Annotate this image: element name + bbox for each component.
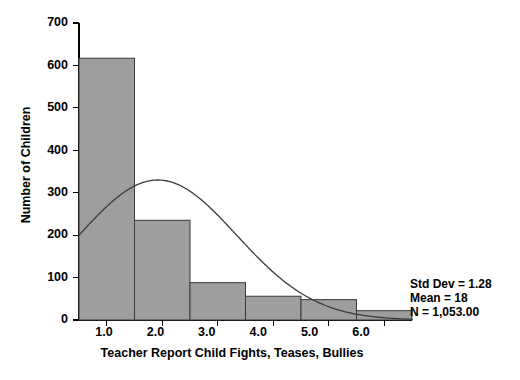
- y-axis-tick-labels: 0 100 200 300 400 500 600 700: [47, 15, 68, 326]
- y-tick-label: 100: [47, 270, 68, 284]
- y-axis-ticks: [73, 23, 79, 320]
- y-tick-label: 300: [47, 185, 68, 199]
- x-tick-label: 3.0: [198, 325, 215, 339]
- y-tick-label: 600: [47, 58, 68, 72]
- x-tick-label: 1.0: [95, 325, 112, 339]
- mean-annotation: Mean = 18: [410, 291, 468, 305]
- y-tick-label: 200: [47, 227, 68, 241]
- y-tick-label: 500: [47, 100, 68, 114]
- histogram-bar: [79, 58, 135, 320]
- histogram-bar: [301, 300, 357, 320]
- y-tick-label: 700: [47, 15, 68, 29]
- x-tick-label: 4.0: [250, 325, 267, 339]
- histogram-bar: [246, 296, 302, 320]
- x-tick-label: 2.0: [147, 325, 164, 339]
- x-axis-title: Teacher Report Child Fights, Teases, Bul…: [101, 346, 364, 360]
- std-dev-annotation: Std Dev = 1.28: [410, 277, 492, 291]
- y-tick-label: 0: [61, 312, 68, 326]
- x-tick-label: 6.0: [352, 325, 369, 339]
- y-tick-label: 400: [47, 143, 68, 157]
- x-tick-label: 5.0: [301, 325, 318, 339]
- y-axis-title: Number of Children: [19, 107, 33, 224]
- histogram-bar: [135, 220, 191, 320]
- chart-canvas: 0 100 200 300 400 500 600 700 1.0 2.0 3.…: [0, 0, 520, 380]
- x-axis-tick-labels: 1.0 2.0 3.0 4.0 5.0 6.0: [95, 325, 369, 339]
- histogram-chart: 0 100 200 300 400 500 600 700 1.0 2.0 3.…: [0, 0, 520, 380]
- histogram-bar: [190, 283, 246, 320]
- n-annotation: N = 1,053.00: [410, 305, 479, 319]
- statistics-annotation: Std Dev = 1.28 Mean = 18 N = 1,053.00: [410, 277, 492, 319]
